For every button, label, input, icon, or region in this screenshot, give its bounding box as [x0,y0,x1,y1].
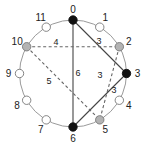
node-8-white [22,96,30,104]
node-10-gray [22,43,30,51]
node-label-8: 8 [14,100,20,111]
node-label-10: 10 [12,36,24,47]
node-9-white [15,69,23,77]
edge-label-0-6: 6 [75,68,80,78]
node-5-gray [96,116,104,124]
node-label-6: 6 [70,133,76,144]
edge-labels-layer: 336435 [46,36,116,95]
node-1-white [96,23,104,31]
node-3-black [122,69,130,77]
pitch-class-circle-diagram: 336435 01234567891011 [0,0,142,149]
node-label-3: 3 [135,68,141,79]
node-label-7: 7 [38,124,44,135]
node-0-black [69,16,77,24]
edge-label-10-2: 4 [53,37,58,47]
edge-label-0-3: 3 [96,36,101,46]
edge-label-10-5: 5 [46,76,51,86]
node-label-1: 1 [102,12,108,23]
node-11-white [42,23,50,31]
node-label-9: 9 [6,68,12,79]
node-6-black [69,123,77,131]
node-label-4: 4 [126,100,132,111]
node-2-gray [115,43,123,51]
edge-label-2-5: 3 [97,70,102,80]
edge-10-5 [27,47,100,120]
node-label-5: 5 [102,124,108,135]
node-label-0: 0 [70,4,76,15]
node-7-white [42,116,50,124]
node-label-11: 11 [36,12,47,23]
node-label-2: 2 [126,36,132,47]
edge-label-3-6: 3 [111,85,116,95]
node-4-white [115,96,123,104]
